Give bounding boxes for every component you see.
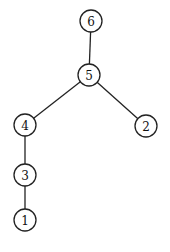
tree-node-2: 2 bbox=[135, 115, 157, 137]
edges-group bbox=[25, 21, 146, 220]
tree-node-4: 4 bbox=[14, 114, 36, 136]
node-label: 6 bbox=[87, 15, 95, 29]
node-label: 5 bbox=[85, 69, 93, 83]
tree-node-3: 3 bbox=[14, 164, 36, 186]
tree-node-5: 5 bbox=[78, 64, 100, 86]
node-label: 4 bbox=[21, 119, 29, 133]
tree-node-1: 1 bbox=[14, 209, 36, 231]
node-label: 3 bbox=[21, 169, 29, 183]
nodes-group: 654231 bbox=[14, 10, 157, 231]
node-label: 1 bbox=[21, 214, 29, 228]
node-label: 2 bbox=[142, 120, 150, 134]
edge-5-4 bbox=[25, 75, 89, 125]
tree-node-6: 6 bbox=[80, 10, 102, 32]
tree-diagram: 654231 bbox=[0, 0, 170, 252]
